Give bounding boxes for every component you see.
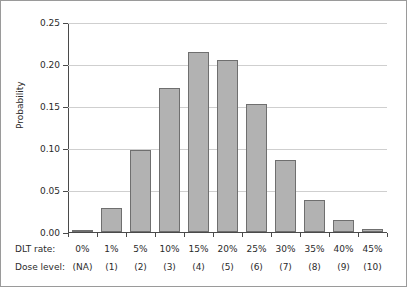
dose-level-value: (10) [358, 262, 387, 272]
dose-level-value: (4) [184, 262, 213, 272]
x-tick [387, 233, 388, 237]
bar [217, 60, 238, 232]
dose-level-value: (8) [300, 262, 329, 272]
dlt-rate-value: 20% [213, 244, 242, 254]
dlt-rate-value: 40% [329, 244, 358, 254]
bar [159, 88, 180, 232]
x-axis-line [68, 232, 387, 233]
y-tick [63, 191, 68, 192]
bar [130, 150, 151, 232]
dose-level-value: (1) [97, 262, 126, 272]
bar [72, 230, 93, 232]
dlt-rate-value: 1% [97, 244, 126, 254]
y-axis-line [68, 23, 69, 233]
x-tick [184, 233, 185, 237]
y-tick-label: 0.25 [40, 18, 60, 28]
y-tick [63, 107, 68, 108]
bar [333, 220, 354, 232]
gridline [68, 23, 387, 24]
y-tick [63, 149, 68, 150]
dose-level-row-label: Dose level: [15, 262, 65, 272]
y-tick-label: 0.10 [40, 144, 60, 154]
x-tick [329, 233, 330, 237]
dlt-rate-value: 0% [68, 244, 97, 254]
y-tick [63, 23, 68, 24]
dlt-rate-value: 10% [155, 244, 184, 254]
y-tick-label: 0.20 [40, 60, 60, 70]
dose-level-value: (7) [271, 262, 300, 272]
y-axis-title: Probability [15, 81, 25, 129]
chart-figure: Probability 0.000.050.100.150.200.25 DLT… [0, 0, 407, 287]
dlt-rate-value: 35% [300, 244, 329, 254]
x-tick [271, 233, 272, 237]
bar [362, 229, 383, 232]
bar [246, 104, 267, 232]
y-tick-label: 0.15 [40, 102, 60, 112]
x-tick [242, 233, 243, 237]
dlt-rate-row-label: DLT rate: [15, 244, 55, 254]
dose-level-value: (2) [126, 262, 155, 272]
y-tick-label: 0.05 [40, 186, 60, 196]
y-tick [63, 65, 68, 66]
bar [188, 52, 209, 232]
dose-level-value: (NA) [68, 262, 97, 272]
dlt-rate-value: 25% [242, 244, 271, 254]
y-tick-label: 0.00 [40, 228, 60, 238]
x-tick [358, 233, 359, 237]
bar [101, 208, 122, 232]
bar [304, 200, 325, 232]
dose-level-value: (3) [155, 262, 184, 272]
dose-level-value: (5) [213, 262, 242, 272]
dose-level-value: (6) [242, 262, 271, 272]
dlt-rate-value: 45% [358, 244, 387, 254]
x-tick [68, 233, 69, 237]
bar [275, 160, 296, 232]
x-tick [97, 233, 98, 237]
plot-area: 0.000.050.100.150.200.25 [68, 23, 387, 233]
x-tick [126, 233, 127, 237]
dlt-rate-value: 5% [126, 244, 155, 254]
x-tick [213, 233, 214, 237]
dlt-rate-value: 30% [271, 244, 300, 254]
dlt-rate-value: 15% [184, 244, 213, 254]
x-tick [300, 233, 301, 237]
dose-level-value: (9) [329, 262, 358, 272]
x-tick [155, 233, 156, 237]
